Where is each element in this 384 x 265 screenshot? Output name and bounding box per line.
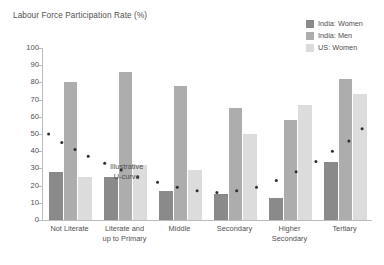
legend-swatch-icon: [306, 20, 314, 28]
x-axis-category-label-line: Middle: [152, 224, 207, 234]
y-axis-tick: 70: [42, 100, 43, 101]
bar[interactable]: [119, 72, 133, 220]
bar[interactable]: [78, 177, 92, 220]
x-axis-category-label: Secondary: [207, 224, 262, 234]
y-axis-tick: 90: [42, 65, 43, 66]
y-axis-tick-label: 30: [31, 163, 39, 172]
bar[interactable]: [49, 172, 63, 220]
legend-item-label: India: Men: [318, 31, 352, 40]
bar-group: [104, 48, 147, 220]
chart-container: Labour Force Participation Rate (%) Indi…: [0, 0, 384, 265]
x-axis-category-label-line: Literate and: [97, 224, 152, 234]
bar[interactable]: [159, 191, 173, 220]
legend-swatch-icon: [306, 32, 314, 40]
bar[interactable]: [324, 162, 338, 220]
y-axis-tick-label: 80: [31, 77, 39, 86]
x-axis-category-label-line: up to Primary: [97, 234, 152, 244]
bar[interactable]: [64, 82, 78, 220]
y-axis-tick: 20: [42, 186, 43, 187]
y-axis-tick-label: 70: [31, 95, 39, 104]
x-axis-category-label: Not Literate: [42, 224, 97, 234]
legend-item[interactable]: India: Women: [306, 18, 384, 29]
bar[interactable]: [339, 79, 353, 220]
y-axis-tick-label: 0: [35, 215, 39, 224]
x-axis-category-label-line: Not Literate: [42, 224, 97, 234]
bar[interactable]: [214, 194, 228, 220]
x-axis-category-label: Literate andup to Primary: [97, 224, 152, 243]
y-axis-tick-label: 20: [31, 181, 39, 190]
y-axis-tick: 60: [42, 117, 43, 118]
y-axis-tick: 50: [42, 134, 43, 135]
bar[interactable]: [174, 86, 188, 220]
x-axis-category-label-line: Tertiary: [317, 224, 372, 234]
y-axis-tick: 80: [42, 82, 43, 83]
bar[interactable]: [104, 177, 118, 220]
y-axis-tick: 40: [42, 151, 43, 152]
x-axis-category-label: Middle: [152, 224, 207, 234]
bar[interactable]: [284, 120, 298, 220]
bar[interactable]: [353, 94, 367, 220]
bar-group: [159, 48, 202, 220]
bar-group: [214, 48, 257, 220]
y-axis-tick-label: 40: [31, 146, 39, 155]
bar[interactable]: [188, 170, 202, 220]
bar[interactable]: [229, 108, 243, 220]
y-axis-tick-label: 10: [31, 198, 39, 207]
y-axis-tick: 10: [42, 203, 43, 204]
y-axis-tick-label: 100: [26, 43, 39, 52]
u-curve-annotation-line-2: U-curve: [110, 172, 143, 182]
y-axis-tick-label: 90: [31, 60, 39, 69]
y-axis-tick: 0: [42, 220, 43, 221]
x-axis-category-label-line: Higher: [262, 224, 317, 234]
bar-group: [269, 48, 312, 220]
y-axis-tick-label: 50: [31, 129, 39, 138]
bar[interactable]: [298, 105, 312, 220]
plot-area: 0102030405060708090100 Not LiterateLiter…: [42, 48, 372, 220]
x-axis-category-label: Tertiary: [317, 224, 372, 234]
x-axis-category-label-line: Secondary: [262, 234, 317, 244]
u-curve-dot: [314, 160, 317, 163]
u-curve-annotation-line-1: Illustrative: [110, 162, 143, 172]
x-axis-line: [42, 220, 372, 221]
x-axis-category-label-line: Secondary: [207, 224, 262, 234]
bar-group: [324, 48, 367, 220]
y-axis-tick: 100: [42, 48, 43, 49]
bar-group: [49, 48, 92, 220]
bar[interactable]: [243, 134, 257, 220]
y-axis-tick-label: 60: [31, 112, 39, 121]
legend-item[interactable]: India: Men: [306, 30, 384, 41]
y-axis-tick: 30: [42, 168, 43, 169]
x-axis-category-label: HigherSecondary: [262, 224, 317, 243]
bar[interactable]: [269, 198, 283, 220]
u-curve-annotation: Illustrative U-curve: [110, 162, 143, 181]
chart-title: Labour Force Participation Rate (%): [13, 11, 147, 20]
legend-item-label: India: Women: [318, 19, 363, 28]
